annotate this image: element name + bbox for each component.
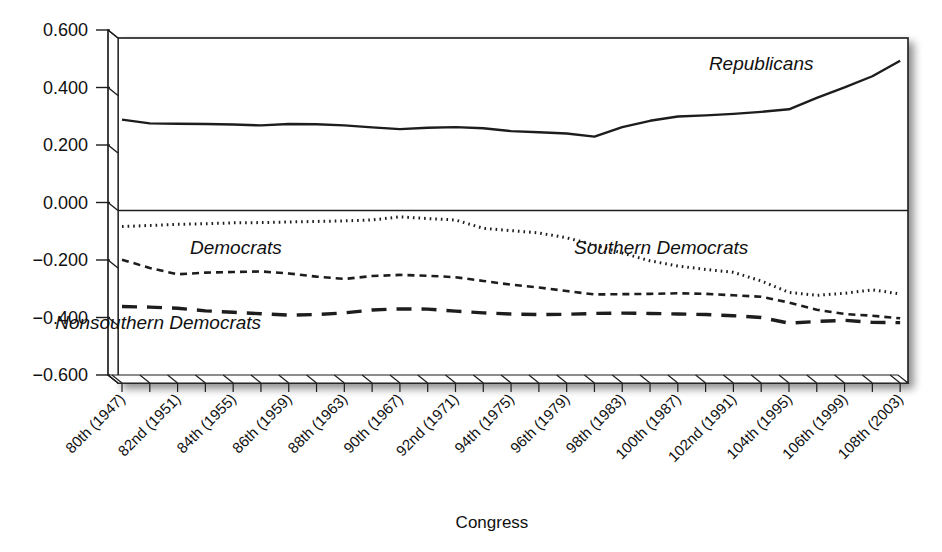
y-tick-label: 0.400	[43, 78, 88, 98]
x-axis-title: Congress	[456, 513, 529, 532]
y-tick-label: 0.600	[43, 20, 88, 40]
series-annotation: Democrats	[190, 237, 282, 258]
series-annotation: Nonsouthern Democrats	[55, 312, 261, 333]
series-annotation: Republicans	[709, 53, 814, 74]
y-tick-label: −0.200	[32, 250, 88, 270]
x-axis-tick-labels: 80th (1947)82nd (1951)84th (1955)86th (1…	[62, 390, 906, 465]
series-annotation: Southern Democrats	[574, 237, 749, 258]
chart-figure: 0.6000.4000.2000.000−0.200−0.400−0.600 8…	[0, 0, 942, 552]
line-chart: 0.6000.4000.2000.000−0.200−0.400−0.600 8…	[0, 0, 942, 552]
y-tick-label: 0.000	[43, 193, 88, 213]
y-tick-label: 0.200	[43, 135, 88, 155]
y-tick-label: −0.600	[32, 365, 88, 385]
